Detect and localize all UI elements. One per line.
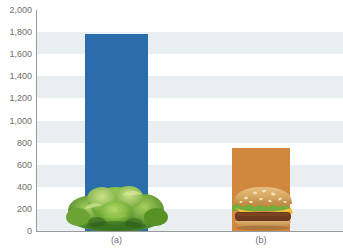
y-axis-tick-label: 1,800 <box>0 27 32 37</box>
bar-chart: 02004006008001,0001,2001,4001,6001,8002,… <box>0 0 343 251</box>
y-axis-tick-label: 1,400 <box>0 71 32 81</box>
y-axis-tick-label: 2,000 <box>0 5 32 15</box>
hamburger-image <box>228 182 298 231</box>
y-axis-tick-label: 1,600 <box>0 49 32 59</box>
y-axis-tick-label: 0 <box>0 226 32 236</box>
y-axis-tick-label: 200 <box>0 204 32 214</box>
x-axis-label-a: (a) <box>111 235 122 245</box>
x-axis-label-b: (b) <box>256 235 267 245</box>
lettuce-image <box>64 179 168 231</box>
y-axis-tick-label: 600 <box>0 160 32 170</box>
y-axis-tick-label: 400 <box>0 182 32 192</box>
y-axis-tick-label: 1,000 <box>0 116 32 126</box>
y-axis-tick-label: 1,200 <box>0 93 32 103</box>
y-axis-tick-label: 800 <box>0 138 32 148</box>
